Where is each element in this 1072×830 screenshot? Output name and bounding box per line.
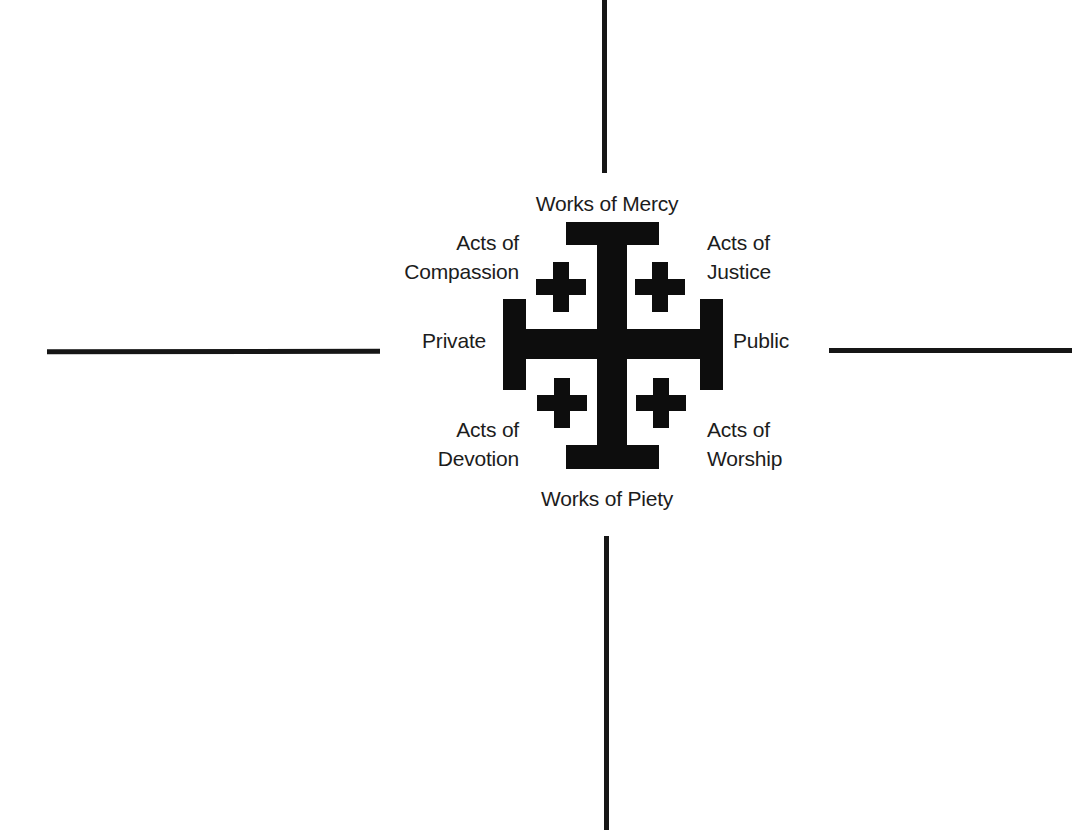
axis-line-left — [47, 349, 380, 355]
label-top-right-line1: Acts of — [707, 228, 827, 257]
label-bottom-right-line2: Worship — [707, 444, 827, 473]
axis-line-bottom — [604, 536, 609, 830]
label-bottom-left-line2: Devotion — [380, 444, 519, 473]
label-left: Private — [380, 326, 486, 355]
cross-right-bar — [700, 299, 723, 390]
axis-line-right — [829, 348, 1072, 353]
label-top-left-line2: Compassion — [360, 257, 519, 286]
label-top: Works of Mercy — [512, 189, 702, 218]
label-right: Public — [733, 326, 833, 355]
label-top-left: Acts of Compassion — [360, 228, 519, 286]
label-top-right: Acts of Justice — [707, 228, 827, 286]
axis-line-top — [602, 0, 607, 173]
label-bottom-right-line1: Acts of — [707, 415, 827, 444]
label-bottom-right: Acts of Worship — [707, 415, 827, 473]
cross-bottom-bar — [566, 445, 659, 469]
cross-left-bar — [503, 299, 526, 390]
label-top-right-line2: Justice — [707, 257, 827, 286]
label-bottom: Works of Piety — [512, 484, 702, 513]
label-bottom-left: Acts of Devotion — [380, 415, 519, 473]
cross-horizontal-bar — [503, 329, 723, 359]
label-bottom-left-line1: Acts of — [380, 415, 519, 444]
label-top-left-line1: Acts of — [360, 228, 519, 257]
